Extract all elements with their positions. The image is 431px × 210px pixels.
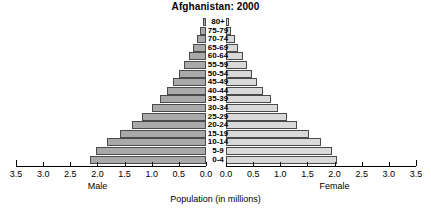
- axis-tick: [307, 162, 308, 166]
- axis-tick: [226, 162, 227, 166]
- female-side-label: Female: [305, 181, 365, 192]
- female-bar: [226, 147, 332, 155]
- female-bar: [226, 156, 337, 164]
- female-axis-line: [226, 166, 416, 167]
- axis-tick: [152, 162, 153, 166]
- x-axis-title: Population (in millions): [0, 194, 431, 205]
- axis-tick-label: 2.0: [322, 169, 348, 180]
- axis-tick: [253, 162, 254, 166]
- chart-title: Afghanistan: 2000: [0, 1, 431, 13]
- male-bar: [90, 156, 206, 164]
- axis-tick: [179, 162, 180, 166]
- axis-tick: [125, 162, 126, 166]
- axis-tick: [43, 162, 44, 166]
- axis-tick: [16, 160, 17, 166]
- axis-tick-label: 1.5: [112, 169, 138, 180]
- axis-tick: [280, 162, 281, 166]
- population-pyramid-chart: Afghanistan: 2000 80+75-7970-7465-6960-6…: [0, 0, 431, 210]
- axis-tick-label: 0.0: [213, 169, 239, 180]
- axis-tick: [206, 162, 207, 166]
- axis-tick-label: 3.5: [3, 169, 29, 180]
- axis-tick-label: 2.0: [84, 169, 110, 180]
- axis-tick-label: 0.5: [240, 169, 266, 180]
- plot-area: 80+75-7970-7465-6960-6455-5950-5445-4940…: [0, 18, 431, 166]
- axis-tick: [335, 162, 336, 166]
- axis-tick-label: 2.5: [349, 169, 375, 180]
- axis-tick-label: 3.0: [376, 169, 402, 180]
- axis-tick-label: 1.0: [139, 169, 165, 180]
- axis-tick: [416, 160, 417, 166]
- female-bar: [226, 138, 321, 146]
- male-bar: [107, 138, 206, 146]
- axis-tick-label: 1.5: [294, 169, 320, 180]
- male-axis-line: [16, 166, 206, 167]
- pyramid-row: 0-4: [0, 156, 431, 164]
- age-group-label: 0-4: [196, 155, 240, 164]
- axis-tick: [97, 162, 98, 166]
- male-bar: [120, 130, 206, 138]
- male-bar: [132, 121, 206, 129]
- axis-tick-label: 3.5: [403, 169, 429, 180]
- axis-tick: [389, 162, 390, 166]
- axis-tick-label: 3.0: [30, 169, 56, 180]
- axis-tick-label: 2.5: [57, 169, 83, 180]
- male-side-label: Male: [67, 181, 127, 192]
- axis-tick: [362, 162, 363, 166]
- male-bar: [96, 147, 206, 155]
- axis-tick: [70, 162, 71, 166]
- axis-tick-label: 0.5: [166, 169, 192, 180]
- axis-tick-label: 1.0: [267, 169, 293, 180]
